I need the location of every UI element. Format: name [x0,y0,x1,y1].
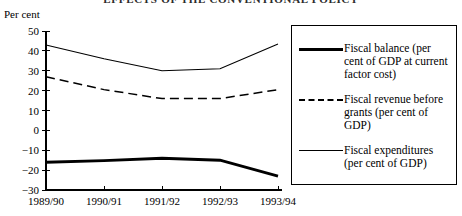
y-axis-tick-label: −20 [22,164,40,176]
legend-swatch-dashed-icon [299,93,343,105]
legend-entry-fiscal-balance: Fiscal balance (per cent of GDP at curre… [299,42,451,82]
x-axis-tick-labels: 1989/901990/911991/921992/931993/94 [28,195,297,207]
y-axis-tick-label: 20 [28,85,40,97]
y-axis-tick-label: 0 [34,124,40,136]
legend-swatch-thick-solid-icon [299,42,343,54]
y-axis-tick-labels: 50403020100−10−20−30 [22,25,40,196]
y-axis-tick-label: −10 [22,144,40,156]
x-axis-tick-marks [46,186,278,190]
series-line-fiscal-revenue [46,77,278,99]
x-axis-tick-label: 1991/92 [144,195,180,207]
x-axis-tick-label: 1993/94 [260,195,297,207]
legend-entry-fiscal-revenue: Fiscal revenue before grants (per cent o… [299,93,451,133]
chart-legend: Fiscal balance (per cent of GDP at curre… [291,25,457,185]
x-axis-tick-label: 1992/93 [202,195,239,207]
legend-entry-fiscal-expenditures: Fiscal expenditures (per cent of GDP) [299,144,451,170]
x-axis-tick-label: 1990/91 [86,195,122,207]
legend-swatch-thin-solid-icon [299,144,343,156]
series-line-fiscal-balance [46,158,278,176]
y-axis-tick-label: 10 [28,105,40,117]
x-axis-tick-label: 1989/90 [28,195,65,207]
legend-label-fiscal-expenditures: Fiscal expenditures (per cent of GDP) [343,144,451,170]
legend-label-fiscal-balance: Fiscal balance (per cent of GDP at curre… [343,42,451,82]
y-axis-tick-label: 50 [28,25,40,37]
series-line-fiscal-expenditures [46,44,278,71]
y-axis-tick-label: 40 [28,45,40,57]
y-axis-tick-label: 30 [28,65,40,77]
figure: EFFECTS OF THE CONVENTIONAL POLICY Per c… [0,0,462,216]
legend-label-fiscal-revenue: Fiscal revenue before grants (per cent o… [343,93,451,133]
